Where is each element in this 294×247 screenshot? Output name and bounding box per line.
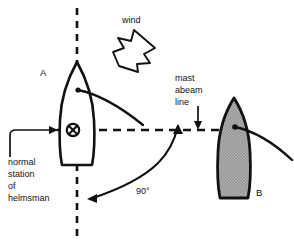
angle-arc-icon (87, 124, 183, 203)
sailboat-b-shaded (218, 98, 292, 198)
leader-line-icon (10, 126, 58, 157)
sailing-rule-diagram: wind A B mast abeam line normal station … (0, 0, 294, 247)
helmsman-label-2: station (8, 169, 35, 179)
helmsman-label-1: normal (8, 157, 36, 167)
mast-abeam-line-label-2: abeam (175, 85, 203, 95)
wind-label: wind (121, 15, 141, 25)
sailboat-a-outline (60, 62, 143, 165)
boat-b-label: B (256, 187, 262, 198)
mast-abeam-line-label-1: mast (175, 73, 195, 83)
helmsman-label-3: of (8, 181, 16, 191)
helmsman-label-4: helmsman (8, 193, 50, 203)
wind-arrow-icon (113, 30, 155, 72)
down-arrow-icon (194, 106, 202, 130)
boat-a-label: A (40, 67, 47, 78)
angle-label: 90° (136, 186, 150, 196)
mast-abeam-line-label-3: line (175, 97, 189, 107)
circled-x-icon (67, 124, 79, 136)
